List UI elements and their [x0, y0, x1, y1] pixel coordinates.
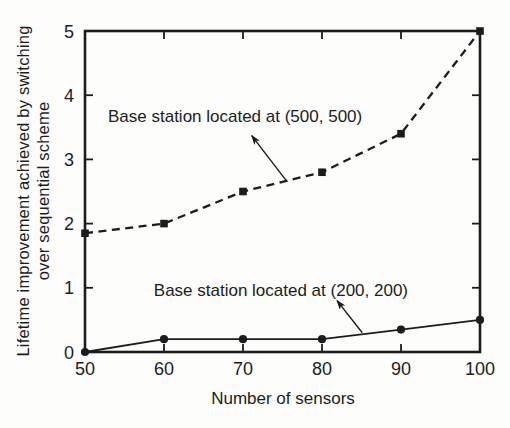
data-point-square-0-0: [81, 229, 89, 237]
data-point-circle-1-2: [239, 335, 247, 343]
y-tick-label-0: 0: [64, 343, 74, 363]
data-point-circle-1-0: [81, 348, 89, 356]
data-point-circle-1-5: [476, 316, 484, 324]
data-point-circle-1-4: [397, 325, 405, 333]
series-line-0: [85, 31, 480, 233]
annotation-base-station-200-200: Base station located at (200, 200): [154, 281, 408, 301]
data-point-square-0-2: [239, 188, 247, 196]
chart-svg: 5060708090100012345: [0, 0, 510, 428]
y-axis-label-line2: over sequential scheme: [33, 25, 53, 356]
x-tick-label-90: 90: [391, 359, 411, 379]
data-point-square-0-5: [476, 27, 484, 35]
data-point-square-0-4: [397, 130, 405, 138]
y-tick-label-1: 1: [64, 278, 74, 298]
chart-layer: 5060708090100012345: [64, 22, 495, 380]
data-point-circle-1-3: [318, 335, 326, 343]
annotation-base-station-500-500: Base station located at (500, 500): [108, 107, 362, 127]
data-point-square-0-1: [160, 220, 168, 228]
x-tick-label-100: 100: [465, 359, 495, 379]
annotation-arrow-1: [337, 301, 362, 333]
y-tick-label-3: 3: [64, 150, 74, 170]
chart-figure: 5060708090100012345 Lifetime improvement…: [0, 0, 510, 428]
annotation-arrow-0: [252, 136, 288, 182]
plot-frame: [85, 31, 480, 352]
y-axis-label: Lifetime improvement achieved by switchi…: [13, 25, 53, 356]
y-tick-label-4: 4: [64, 86, 74, 106]
y-tick-label-5: 5: [64, 22, 74, 42]
x-tick-label-70: 70: [233, 359, 253, 379]
x-tick-label-80: 80: [312, 359, 332, 379]
y-tick-label-2: 2: [64, 214, 74, 234]
x-axis-label: Number of sensors: [211, 389, 355, 409]
series-line-1: [85, 320, 480, 352]
y-axis-label-line1: Lifetime improvement achieved by switchi…: [13, 25, 33, 356]
x-tick-label-50: 50: [75, 359, 95, 379]
data-point-square-0-3: [318, 168, 326, 176]
x-tick-label-60: 60: [154, 359, 174, 379]
data-point-circle-1-1: [160, 335, 168, 343]
